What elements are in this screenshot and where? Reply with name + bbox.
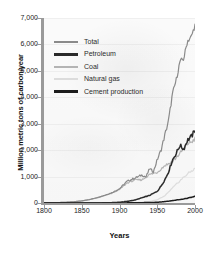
x-tick	[195, 205, 196, 209]
y-tick	[36, 150, 41, 151]
legend-label: Petroleum	[84, 50, 116, 58]
y-tick	[36, 124, 41, 125]
x-tick	[44, 205, 45, 209]
y-tick-label: 0	[4, 199, 38, 206]
y-axis-title: Million metric tons of carbon/year	[16, 38, 25, 188]
carbon-emissions-chart: 01,0002,0003,0004,0005,0006,0007,000 180…	[0, 0, 212, 258]
legend-swatch-icon	[54, 41, 78, 43]
x-tick	[82, 205, 83, 209]
legend-label: Total	[84, 38, 99, 46]
y-tick	[36, 44, 41, 45]
y-tick	[36, 177, 41, 178]
legend-item-petroleum[interactable]: Petroleum	[54, 50, 143, 58]
legend-label: Coal	[84, 63, 98, 71]
x-tick	[120, 205, 121, 209]
y-tick	[36, 71, 41, 72]
series-line-petroleum	[44, 131, 195, 203]
legend: TotalPetroleumCoalNatural gasCement prod…	[54, 38, 143, 96]
y-tick	[36, 203, 41, 204]
legend-label: Natural gas	[84, 75, 120, 83]
series-line-natural-gas	[44, 168, 195, 203]
legend-swatch-icon	[54, 90, 78, 92]
y-tick	[36, 97, 41, 98]
legend-swatch-icon	[54, 66, 78, 68]
legend-label: Cement production	[84, 88, 143, 96]
y-tick-label: 7,000	[4, 14, 38, 21]
legend-item-total[interactable]: Total	[54, 38, 143, 46]
legend-item-coal[interactable]: Coal	[54, 63, 143, 71]
legend-swatch-icon	[54, 53, 78, 55]
series-line-coal	[44, 137, 195, 203]
x-tick	[157, 205, 158, 209]
legend-item-cement-production[interactable]: Cement production	[54, 88, 143, 96]
y-axis-line	[41, 18, 44, 204]
x-axis-title: Years	[44, 231, 195, 240]
legend-item-natural-gas[interactable]: Natural gas	[54, 75, 143, 83]
legend-swatch-icon	[54, 78, 78, 80]
x-axis-line	[41, 203, 195, 205]
y-tick	[36, 18, 41, 19]
